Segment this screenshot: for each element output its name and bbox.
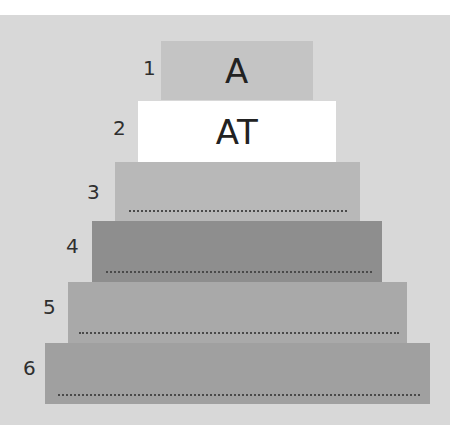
tier-6-blank-line [58,394,420,396]
tier-1-text: A [161,41,313,100]
tier-4-blank-line [106,271,372,273]
tier-number-3: 3 [87,182,100,202]
tier-5 [68,282,407,343]
tier-1: A [161,41,313,100]
tier-number-5: 5 [43,297,56,317]
tier-6 [45,343,430,404]
tier-2: AT [138,101,336,162]
tier-3 [115,162,360,221]
tier-5-blank-line [79,332,399,334]
tier-number-6: 6 [23,358,36,378]
tier-number-2: 2 [113,118,126,138]
tier-number-4: 4 [66,236,79,256]
tier-2-text: AT [138,101,336,162]
tier-3-blank-line [129,210,347,212]
tier-number-1: 1 [143,58,156,78]
tier-4 [92,221,382,282]
